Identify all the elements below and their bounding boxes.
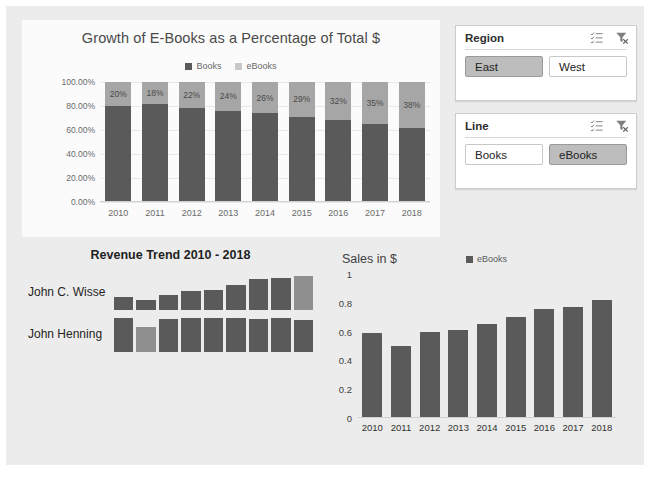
slicer-line-item-ebooks[interactable]: eBooks xyxy=(549,144,627,165)
sales-column-chart[interactable]: Sales in $ eBooks 10.80.60.40.20 2010201… xyxy=(318,252,638,452)
stacked-bar: 22% xyxy=(179,82,205,202)
x-axis-tick-label: 2010 xyxy=(358,422,387,433)
sparkline-bar xyxy=(114,318,133,352)
stacked-bar-column: 22% xyxy=(173,82,210,202)
sales-chart-title: Sales in $ xyxy=(342,252,397,266)
bar xyxy=(506,317,526,418)
sales-chart-x-axis-line xyxy=(358,417,616,418)
multi-select-icon[interactable] xyxy=(590,119,604,133)
sparkline-row: John Henning xyxy=(28,316,313,352)
y-axis-tick-label: 60.00% xyxy=(66,125,95,135)
bar-column xyxy=(530,274,559,418)
stacked-column-chart-panel[interactable]: Growth of E-Books as a Percentage of Tot… xyxy=(22,20,440,237)
stacked-bar-segment-ebooks: 35% xyxy=(362,82,388,124)
x-axis-tick-label: 2016 xyxy=(320,208,357,218)
sparkline-bar xyxy=(204,290,223,310)
slicer-line-title: Line xyxy=(465,120,590,132)
stacked-bar-segment-books xyxy=(289,117,315,202)
x-axis-tick-label: 2011 xyxy=(137,208,174,218)
y-axis-tick-label: 0.00% xyxy=(71,197,95,207)
x-axis-tick-label: 2014 xyxy=(247,208,284,218)
x-axis-tick-label: 2018 xyxy=(587,422,616,433)
sparkline-bar xyxy=(159,295,178,310)
stacked-bar-segment-books xyxy=(142,104,168,202)
stacked-bar-segment-ebooks: 38% xyxy=(399,82,425,128)
stacked-bar-segment-books xyxy=(215,111,241,202)
stacked-bar-segment-ebooks: 18% xyxy=(142,82,168,104)
bar-column xyxy=(387,274,416,418)
sales-chart-plot-area: 10.80.60.40.20 xyxy=(358,274,616,418)
sparkline-bars[interactable] xyxy=(114,274,313,310)
dashboard-canvas: Growth of E-Books as a Percentage of Tot… xyxy=(0,0,650,489)
stacked-bar-column: 24% xyxy=(210,82,247,202)
x-axis-tick-label: 2013 xyxy=(444,422,473,433)
y-axis-tick-label: 1 xyxy=(347,269,352,280)
stacked-bar-column: 29% xyxy=(283,82,320,202)
bar xyxy=(563,307,583,418)
multi-select-icon[interactable] xyxy=(590,31,604,45)
clear-filter-icon[interactable] xyxy=(615,119,629,133)
bar xyxy=(362,333,382,418)
sales-chart-x-axis-labels: 201020112012201320142015201620172018 xyxy=(358,422,616,433)
legend-swatch-ebooks xyxy=(466,256,473,263)
slicer-region-item-west[interactable]: West xyxy=(549,56,627,77)
stacked-bar: 26% xyxy=(252,82,278,202)
bar-column xyxy=(444,274,473,418)
stacked-chart-x-axis-line xyxy=(100,201,430,202)
stacked-bar-segment-books xyxy=(325,120,351,202)
stacked-bar-segment-ebooks: 22% xyxy=(179,82,205,108)
x-axis-tick-label: 2013 xyxy=(210,208,247,218)
sales-chart-legend: eBooks xyxy=(466,254,507,264)
x-axis-tick-label: 2017 xyxy=(559,422,588,433)
stacked-bar: 29% xyxy=(289,82,315,202)
stacked-bar-segment-ebooks: 32% xyxy=(325,82,351,120)
sparkline-bar xyxy=(181,291,200,310)
bar xyxy=(592,300,612,418)
slicer-line-items: Books eBooks xyxy=(456,137,636,165)
x-axis-tick-label: 2015 xyxy=(501,422,530,433)
sparkline-chart-title: Revenue Trend 2010 - 2018 xyxy=(28,248,313,262)
stacked-bar: 24% xyxy=(215,82,241,202)
stacked-bar-column: 32% xyxy=(320,82,357,202)
stacked-chart-legend: Books eBooks xyxy=(22,61,440,71)
bar-column xyxy=(473,274,502,418)
stacked-bar-segment-ebooks: 24% xyxy=(215,82,241,111)
sparkline-bar xyxy=(294,276,313,310)
stacked-bar-column: 38% xyxy=(393,82,430,202)
stacked-chart-bars: 20%18%22%24%26%29%32%35%38% xyxy=(100,82,430,202)
y-axis-tick-label: 100.00% xyxy=(61,77,95,87)
stacked-bar-segment-books xyxy=(399,128,425,202)
sparkline-bar xyxy=(294,320,313,352)
slicer-line[interactable]: Line xyxy=(455,113,637,189)
slicer-region-item-east[interactable]: East xyxy=(465,56,543,77)
clear-filter-icon[interactable] xyxy=(615,31,629,45)
sparkline-bar xyxy=(249,279,268,310)
y-axis-tick-label: 20.00% xyxy=(66,173,95,183)
y-axis-tick-label: 0 xyxy=(347,413,352,424)
slicer-region-icons xyxy=(590,31,629,45)
sparkline-bars[interactable] xyxy=(114,316,313,352)
stacked-chart-x-axis-labels: 201020112012201320142015201620172018 xyxy=(100,208,430,218)
slicer-line-divider xyxy=(465,137,627,138)
stacked-chart-plot-area: 100.00%80.00%60.00%40.00%20.00%0.00% 20%… xyxy=(100,82,430,202)
legend-entry-books: Books xyxy=(185,61,221,71)
gridline xyxy=(100,202,430,203)
legend-label-books: Books xyxy=(196,61,221,71)
sparkline-bar xyxy=(204,318,223,352)
slicer-region[interactable]: Region xyxy=(455,25,637,101)
stacked-bar-segment-books xyxy=(362,124,388,202)
sparkline-bar xyxy=(114,297,133,310)
legend-label-ebooks: eBooks xyxy=(477,254,507,264)
y-axis-tick-label: 80.00% xyxy=(66,101,95,111)
y-axis-tick-label: 40.00% xyxy=(66,149,95,159)
stacked-chart-title: Growth of E-Books as a Percentage of Tot… xyxy=(22,30,440,46)
bar-column xyxy=(415,274,444,418)
slicer-line-icons xyxy=(590,119,629,133)
stacked-bar: 18% xyxy=(142,82,168,202)
slicer-line-item-books[interactable]: Books xyxy=(465,144,543,165)
x-axis-tick-label: 2014 xyxy=(473,422,502,433)
sparkline-row: John C. Wisse xyxy=(28,274,313,310)
bar-column xyxy=(501,274,530,418)
stacked-bar-column: 35% xyxy=(357,82,394,202)
bar-column xyxy=(358,274,387,418)
